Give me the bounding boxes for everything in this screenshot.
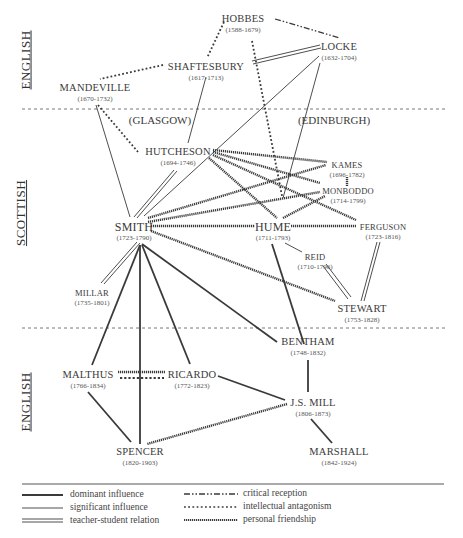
legend-swatch-teacher — [22, 519, 63, 522]
node-stewart: STEWART (1753-1828) — [337, 304, 386, 324]
node-name: SHAFTESBURY — [168, 62, 244, 73]
node-years: (1588-1679) — [222, 27, 265, 34]
node-mandeville: MANDEVILLE (1670-1732) — [60, 83, 131, 103]
edge-mandeville-smith — [96, 105, 130, 217]
edge-hume-monboddo — [283, 196, 325, 218]
node-name: RICARDO — [168, 370, 217, 381]
node-millar: MILLAR (1735-1801) — [75, 289, 110, 307]
edge-malthus-spencer — [88, 392, 131, 442]
node-name: MONBODDO — [322, 187, 374, 196]
node-name: STEWART — [337, 304, 386, 315]
node-spencer: SPENCER (1820-1903) — [116, 447, 164, 467]
region-label-english-bottom: ENGLISH — [18, 372, 34, 431]
city-label-glasgow: (GLASGOW) — [129, 114, 191, 126]
edge-shaftesbury-hutcheson — [188, 77, 206, 143]
edge-hutcheson-kames — [213, 150, 327, 162]
node-shaftesbury: SHAFTESBURY (1617-1713) — [168, 62, 244, 82]
node-monboddo: MONBODDO (1714-1799) — [322, 187, 374, 205]
edge-hobbes-hume — [252, 41, 282, 196]
node-name: J.S. MILL — [290, 398, 335, 409]
city-label-edinburgh: (EDINBURGH) — [298, 114, 370, 126]
edge-smith-monboddo — [148, 192, 320, 222]
node-ricardo: RICARDO (1772-1823) — [168, 370, 217, 390]
node-jsmill: J.S. MILL (1806-1873) — [290, 398, 335, 418]
node-years: (1711-1793) — [255, 235, 291, 242]
legend-label-teacher: teacher-student relation — [70, 515, 159, 525]
edge-locke-shaftesbury — [252, 45, 321, 64]
node-years: (1714-1799) — [322, 198, 374, 205]
node-marshall: MARSHALL (1842-1924) — [309, 447, 368, 467]
node-name: HUTCHESON — [145, 147, 210, 158]
node-years: (1617-1713) — [168, 75, 244, 82]
node-name: SMITH — [115, 221, 153, 233]
node-ferguson: FERGUSON (1723-1816) — [360, 223, 406, 241]
node-years: (1670-1732) — [60, 96, 131, 103]
node-years: (1723-1816) — [360, 234, 406, 241]
region-label-english-top: ENGLISH — [18, 30, 34, 89]
node-name: MARSHALL — [309, 447, 368, 458]
node-years: (1696-1782) — [330, 172, 365, 179]
node-years: (1753-1828) — [337, 317, 386, 324]
node-hobbes: HOBBES (1588-1679) — [222, 14, 265, 34]
edge-shaftesbury-mandeville — [100, 65, 163, 79]
legend-label-dominant: dominant influence — [70, 489, 144, 499]
edge-mandeville-hutcheson — [98, 105, 138, 152]
node-hutcheson: HUTCHESON (1694-1746) — [145, 147, 210, 167]
node-years: (1842-1924) — [309, 460, 368, 467]
legend-label-antagonism: intellectual antagonism — [243, 501, 331, 511]
node-years: (1735-1801) — [75, 300, 110, 307]
edge-smith-millar — [101, 242, 140, 284]
edge-hobbes-locke — [275, 19, 340, 38]
node-years: (1748-1832) — [281, 350, 334, 357]
node-years: (1820-1903) — [116, 460, 164, 467]
node-name: SPENCER — [116, 447, 164, 458]
node-reid: REID (1710-1796) — [298, 253, 333, 271]
node-name: HOBBES — [222, 14, 265, 25]
legend-label-friendship: personal friendship — [243, 514, 316, 524]
node-years: (1766-1834) — [62, 383, 113, 390]
node-name: FERGUSON — [360, 223, 406, 232]
node-hume: HUME (1711-1793) — [255, 221, 291, 242]
edge-hume-reid — [285, 243, 302, 252]
edge-ricardo-jsmill — [218, 376, 285, 400]
node-name: HUME — [255, 221, 291, 233]
node-years: (1632-1704) — [321, 55, 357, 62]
node-kames: KAMES (1696-1782) — [330, 161, 365, 179]
node-locke: LOCKE (1632-1704) — [321, 42, 357, 62]
node-smith: SMITH (1723-1790) — [115, 221, 153, 242]
edge-jsmill-marshall — [311, 419, 332, 443]
legend-label-critical: critical reception — [243, 488, 307, 498]
edge-smith-ricardo — [142, 245, 190, 364]
node-name: MILLAR — [75, 289, 110, 298]
node-malthus: MALTHUS (1766-1834) — [62, 370, 113, 390]
node-years: (1772-1823) — [168, 383, 217, 390]
node-years: (1723-1790) — [115, 235, 153, 242]
edge-ferguson-stewart — [361, 242, 380, 301]
node-name: MANDEVILLE — [60, 83, 131, 94]
node-years: (1710-1796) — [298, 264, 333, 271]
edge-jsmill-spencer — [147, 404, 287, 444]
legend-label-significant: significant influence — [70, 502, 148, 512]
node-name: KAMES — [330, 161, 365, 170]
edge-hutcheson-smith — [134, 170, 177, 218]
region-label-scottish: SCOTTISH — [13, 180, 29, 246]
node-name: LOCKE — [321, 42, 357, 53]
node-name: REID — [298, 253, 333, 262]
node-years: (1806-1873) — [290, 411, 335, 418]
node-name: MALTHUS — [62, 370, 113, 381]
node-bentham: BENTHAM (1748-1832) — [281, 337, 334, 357]
node-years: (1694-1746) — [145, 160, 210, 167]
node-name: BENTHAM — [281, 337, 334, 348]
